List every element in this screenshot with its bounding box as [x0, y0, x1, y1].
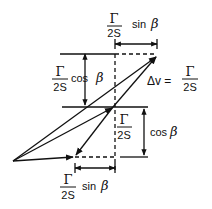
- delta-v-label: Δv = Γ 2S: [147, 64, 198, 93]
- svg-text:β: β: [150, 16, 159, 31]
- svg-text:2S: 2S: [61, 189, 74, 201]
- svg-text:cos: cos: [71, 72, 89, 84]
- svg-text:2S: 2S: [107, 27, 120, 39]
- svg-text:Γ: Γ: [63, 172, 72, 187]
- vector-diagram: Γ 2S sin β Γ 2S cos β Δv = Γ 2S Γ 2S cos…: [0, 0, 212, 209]
- vector-to-bottom: [13, 157, 73, 161]
- vector-to-middle: [13, 108, 112, 161]
- svg-text:β: β: [100, 178, 109, 193]
- svg-text:β: β: [95, 70, 104, 85]
- svg-text:sin: sin: [82, 180, 96, 192]
- vector-middle-to-bottom: [76, 107, 113, 155]
- svg-text:sin: sin: [132, 18, 146, 30]
- top-sin-label: Γ 2S sin β: [107, 11, 159, 39]
- svg-text:β: β: [169, 124, 178, 139]
- svg-text:Δv =: Δv =: [147, 74, 171, 88]
- right-cos-label: Γ 2S cos β: [117, 112, 178, 141]
- svg-text:2S: 2S: [117, 129, 130, 141]
- svg-text:Γ: Γ: [185, 64, 194, 79]
- svg-text:cos: cos: [150, 126, 168, 138]
- bottom-sin-label: Γ 2S sin β: [60, 172, 109, 201]
- left-cos-label: Γ 2S cos β: [52, 64, 104, 93]
- svg-text:Γ: Γ: [119, 112, 128, 127]
- svg-text:Γ: Γ: [55, 64, 64, 79]
- svg-text:2S: 2S: [53, 81, 66, 93]
- svg-text:Γ: Γ: [109, 11, 118, 26]
- svg-text:2S: 2S: [183, 81, 196, 93]
